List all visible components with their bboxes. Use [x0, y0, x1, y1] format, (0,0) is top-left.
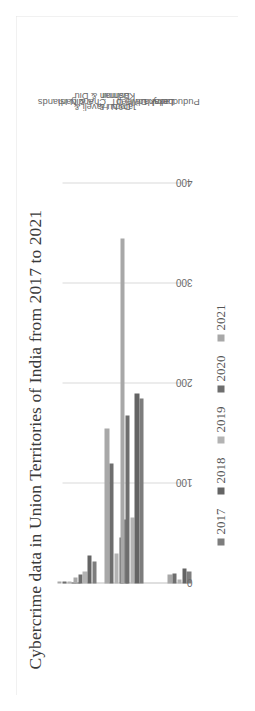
bar-2020-1	[78, 574, 82, 583]
bar-group	[78, 153, 94, 583]
legend-label: 2019	[212, 406, 228, 432]
legend-swatch-icon	[217, 334, 224, 341]
legend-swatch-icon	[217, 385, 224, 392]
bar-2018-7	[182, 568, 186, 583]
bar-2018-4	[134, 393, 138, 583]
bar-2021-7	[167, 574, 171, 583]
legend-item-2021[interactable]: 2021	[212, 304, 228, 341]
bar-2021-0	[57, 581, 61, 583]
bar-2021-4	[120, 238, 124, 583]
chart-title: Cybercrime data in Union Territories of …	[24, 209, 45, 669]
bar-group	[62, 153, 78, 583]
legend-swatch-icon	[217, 487, 224, 494]
legend-item-2020[interactable]: 2020	[212, 355, 228, 392]
legend-item-2018[interactable]: 2018	[212, 457, 228, 494]
tick-label-0: 0	[186, 576, 192, 587]
category-label-7: Puducherry	[129, 96, 221, 107]
plot-area	[62, 153, 188, 583]
legend-label: 2020	[212, 355, 228, 381]
bar-2019-3	[114, 553, 118, 583]
bar-2020-3	[109, 463, 113, 583]
legend-label: 2017	[212, 508, 228, 534]
bar-2019-1	[82, 571, 86, 583]
legend-item-2019[interactable]: 2019	[212, 406, 228, 443]
chart-legend: 20172018201920202021	[212, 304, 228, 545]
tick-label-100: 100	[175, 476, 192, 487]
bar-2019-4	[130, 517, 134, 583]
bar-group	[172, 153, 188, 583]
rotated-chart-canvas: Cybercrime data in Union Territories of …	[16, 16, 238, 695]
bar-2020-4	[125, 415, 129, 583]
bar-2021-3	[104, 428, 108, 583]
tick-label-400: 400	[175, 176, 192, 187]
tick-label-300: 300	[175, 276, 192, 287]
bar-2019-7	[177, 579, 181, 583]
legend-swatch-icon	[217, 436, 224, 443]
bar-2021-1	[73, 577, 77, 583]
bar-2018-1	[87, 555, 91, 583]
bar-2020-0	[62, 581, 66, 583]
tick-label-200: 200	[175, 376, 192, 387]
legend-swatch-icon	[217, 538, 224, 545]
bar-group	[125, 153, 141, 583]
legend-label: 2018	[212, 457, 228, 483]
legend-label: 2021	[212, 304, 228, 330]
bar-group	[157, 153, 173, 583]
chart-frame: Cybercrime data in Union Territories of …	[16, 16, 238, 695]
bar-2020-7	[172, 573, 176, 583]
legend-item-2017[interactable]: 2017	[212, 508, 228, 545]
bar-2019-0	[67, 581, 71, 583]
bar-group	[141, 153, 157, 583]
chart-page: Cybercrime data in Union Territories of …	[0, 0, 255, 711]
